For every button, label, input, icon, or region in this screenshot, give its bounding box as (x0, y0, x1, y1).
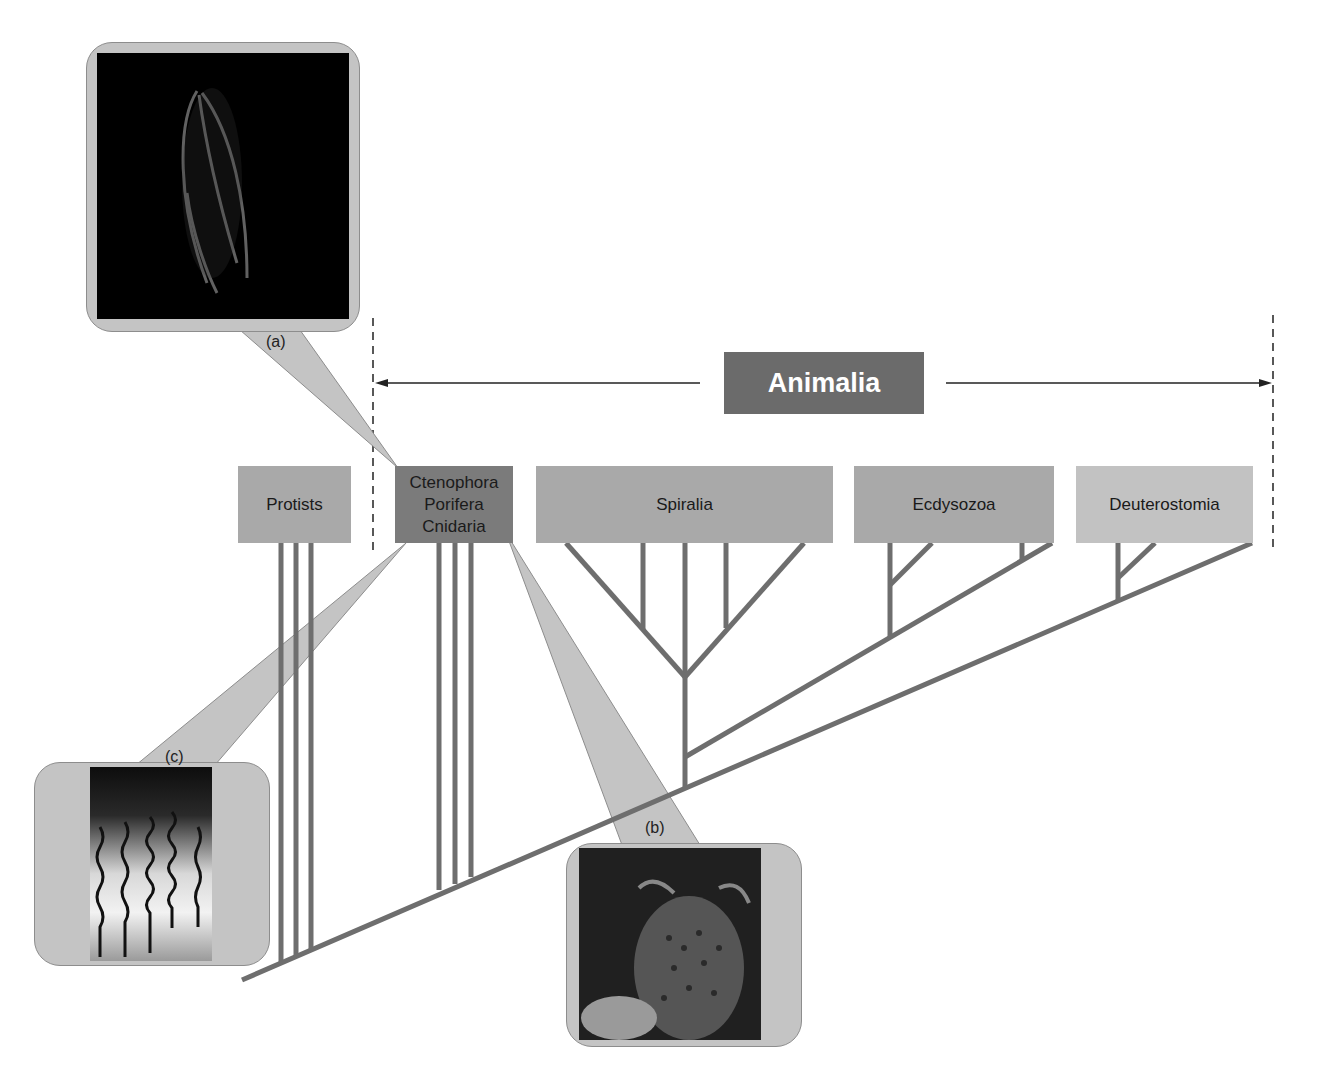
callout-b-pointer (506, 533, 700, 845)
photo-panel-a (86, 42, 360, 332)
clade-label-ctenophora: Ctenophora (410, 472, 499, 494)
clade-label: Ecdysozoa (912, 494, 995, 516)
callout-label-b: (b) (645, 819, 665, 837)
cnidaria-photo (90, 767, 212, 961)
clade-label-porifera: Porifera (424, 494, 484, 516)
callout-label-a: (a) (266, 333, 286, 351)
clade-ctenophora-porifera-cnidaria: Ctenophora Porifera Cnidaria (395, 466, 513, 543)
clade-protists: Protists (238, 466, 351, 543)
callout-label-c: (c) (165, 748, 184, 766)
photo-panel-b (566, 843, 802, 1047)
barrel-sponge-image (579, 848, 761, 1040)
photo-panel-c (34, 762, 270, 966)
clade-spiralia: Spiralia (536, 466, 833, 543)
clade-label: Spiralia (656, 494, 713, 516)
comb-jelly-image (97, 53, 349, 319)
arrowhead-right-icon (1259, 379, 1272, 387)
ctenophora-photo (97, 53, 349, 319)
arrowhead-left-icon (375, 379, 388, 387)
clade-label-cnidaria: Cnidaria (422, 516, 485, 538)
clade-deuterostomia: Deuterostomia (1076, 466, 1253, 543)
clade-label: Protists (266, 494, 323, 516)
animalia-title: Animalia (724, 352, 924, 414)
callout-a-pointer (240, 330, 398, 468)
jellyfish-tentacles-image (90, 767, 212, 961)
callout-c-pointer (136, 543, 406, 765)
clade-ecdysozoa: Ecdysozoa (854, 466, 1054, 543)
porifera-photo (579, 848, 761, 1040)
clade-label: Deuterostomia (1109, 494, 1220, 516)
